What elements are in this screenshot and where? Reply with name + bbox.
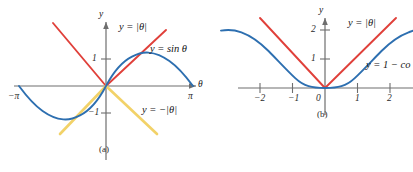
panel-b-xtick-neg-two: −2 bbox=[254, 94, 265, 104]
panel-b-label-abs-theta: y = |θ| bbox=[348, 18, 376, 29]
panel-a-label-sin-theta: y = sin θ bbox=[150, 44, 187, 55]
panel-a-xtick-neg-pi: −π bbox=[8, 92, 19, 102]
panel-b-ytick-two: 2 bbox=[311, 25, 316, 35]
panel-a-caption: (a) bbox=[99, 145, 109, 154]
panel-a-label-abs-theta: y = |θ| bbox=[119, 22, 147, 33]
panel-b-y-axis-label: y bbox=[319, 6, 323, 16]
panel-b-xtick-zero: 0 bbox=[316, 94, 321, 104]
panel-b-xtick-two: 2 bbox=[387, 94, 392, 104]
panel-a-label-neg-abs-theta: y = −|θ| bbox=[142, 105, 177, 116]
panel-b-caption: (b) bbox=[317, 110, 328, 119]
panel-b-xtick-neg-one: −1 bbox=[288, 94, 299, 104]
panel-a-y-axis-label: y bbox=[99, 10, 103, 20]
panel-b-ytick-one: 1 bbox=[311, 54, 316, 64]
panel-b-plot bbox=[200, 0, 413, 172]
curve-abs-theta-red bbox=[53, 23, 166, 86]
figure-root: y θ −π π 1 −1 y = |θ| y = sin θ y = −|θ|… bbox=[0, 0, 413, 172]
panel-b-xtick-one: 1 bbox=[355, 94, 360, 104]
panel-a-ytick-one: 1 bbox=[92, 54, 97, 64]
panel-a-xtick-pi: π bbox=[188, 92, 193, 102]
panel-b: y −2 −1 0 1 2 1 2 y = |θ| y = 1 − co (b) bbox=[200, 0, 413, 172]
panel-a-ytick-neg-one: −1 bbox=[88, 108, 99, 118]
panel-a: y θ −π π 1 −1 y = |θ| y = sin θ y = −|θ|… bbox=[0, 0, 210, 172]
curve-abs-theta-red-b bbox=[260, 18, 396, 88]
panel-b-label-one-minus-cos: y = 1 − co bbox=[366, 60, 411, 71]
